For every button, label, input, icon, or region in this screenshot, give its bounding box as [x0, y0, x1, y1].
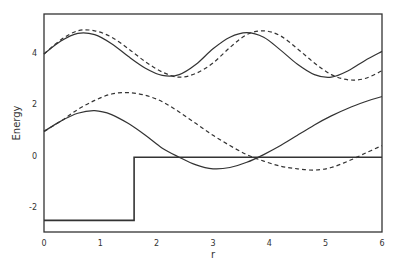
lower-band-solid-line	[44, 97, 382, 169]
x-tick-label: 6	[379, 239, 384, 248]
series-group	[44, 30, 382, 221]
x-tick-label: 0	[41, 239, 46, 248]
y-axis-ticks: -2024	[29, 49, 37, 213]
x-tick-label: 1	[98, 239, 103, 248]
upper-band-solid-line	[44, 33, 382, 78]
plot-frame	[44, 14, 382, 232]
x-tick-label: 3	[210, 239, 215, 248]
x-tick-label: 2	[154, 239, 159, 248]
y-tick-label: 0	[32, 152, 37, 161]
upper-band-dashed-line	[44, 30, 382, 80]
y-tick-label: -2	[29, 203, 37, 212]
x-tick-label: 5	[323, 239, 328, 248]
x-axis-ticks: 0123456	[41, 239, 384, 248]
potential-step-line	[44, 157, 382, 220]
energy-chart: 0123456 -2024 r Energy	[0, 0, 397, 273]
x-axis-label: r	[211, 249, 216, 260]
lower-band-dashed-line	[44, 93, 382, 170]
y-tick-label: 4	[32, 49, 37, 58]
y-axis-label: Energy	[11, 105, 22, 140]
y-tick-label: 2	[32, 100, 37, 109]
x-tick-label: 4	[267, 239, 272, 248]
